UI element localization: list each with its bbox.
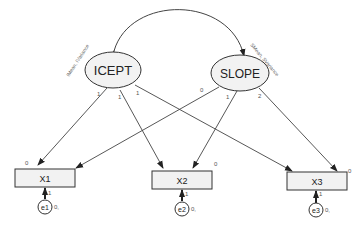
latent-icept[interactable]: ICEPT: [85, 52, 141, 88]
observed-x3[interactable]: X3: [287, 172, 347, 190]
slope-label: SLOPE: [220, 67, 260, 81]
e1-loading: 1: [48, 190, 52, 196]
x2-label: X2: [176, 176, 187, 186]
path-icept-x1: [38, 88, 107, 165]
x3-intercept: 0: [348, 168, 352, 174]
observed-x2[interactable]: X2: [152, 171, 212, 189]
e2-mean: 0,: [191, 206, 196, 212]
weight-slope-x1: 0: [200, 87, 204, 93]
e1-mean: 0,: [54, 204, 59, 210]
latent-slope[interactable]: SLOPE: [211, 55, 269, 91]
e2-label: e2: [178, 206, 186, 213]
weight-icept-x2: 1: [118, 94, 122, 100]
e2-loading: 1: [185, 191, 189, 197]
weight-slope-x3: 2: [258, 93, 262, 99]
x1-intercept: 0: [25, 160, 29, 166]
path-diagram: ICEPT IMean, IVariance SLOPE SMean, SVar…: [0, 0, 360, 228]
icept-label: ICEPT: [94, 63, 132, 78]
error-e2[interactable]: e2: [175, 202, 189, 216]
x1-label: X1: [39, 174, 50, 184]
weight-icept-x3: 1: [136, 90, 140, 96]
error-e1[interactable]: e1: [38, 200, 52, 214]
weight-icept-x1: 1: [97, 91, 101, 97]
error-e3[interactable]: e3: [309, 203, 323, 217]
path-slope-x3: [259, 88, 337, 171]
e3-mean: 0,: [325, 207, 330, 213]
weight-slope-x2: 1: [226, 94, 230, 100]
e3-label: e3: [312, 207, 320, 214]
e3-loading: 1: [319, 191, 323, 197]
x3-label: X3: [311, 177, 322, 187]
e1-label: e1: [41, 204, 49, 211]
observed-x1[interactable]: X1: [15, 169, 75, 187]
path-slope-x2: [193, 91, 237, 168]
covariance-arrow: [114, 10, 244, 56]
x2-intercept: 0: [214, 161, 218, 167]
path-icept-x2: [120, 90, 163, 168]
